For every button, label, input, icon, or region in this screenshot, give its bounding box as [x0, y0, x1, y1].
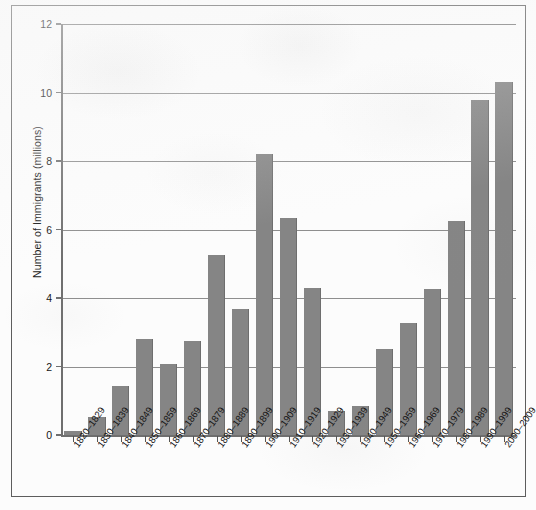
chart-plot-wrapper: Number of Immigrants (millions) 02468101… [0, 0, 536, 510]
x-axis-labels: 1820–18291830–18391840–18491850–18591860… [61, 443, 516, 507]
bar [280, 218, 297, 435]
y-tick-label-6: 6 [46, 224, 52, 236]
y-axis-title: Number of Immigrants (millions) [31, 102, 43, 302]
bar [495, 82, 512, 435]
y-tick-label-10: 10 [40, 87, 52, 99]
bar-series [61, 24, 516, 435]
chart-figure: Number of Immigrants (millions) 02468101… [0, 0, 536, 510]
y-tick-label-8: 8 [46, 155, 52, 167]
bar [448, 221, 465, 435]
y-axis-line [61, 24, 63, 436]
bar [256, 154, 273, 435]
y-tick-label-2: 2 [46, 361, 52, 373]
y-tick-label-12: 12 [40, 18, 52, 30]
bar [471, 100, 488, 435]
y-tick-label-4: 4 [46, 292, 52, 304]
y-tick-label-0: 0 [46, 429, 52, 441]
